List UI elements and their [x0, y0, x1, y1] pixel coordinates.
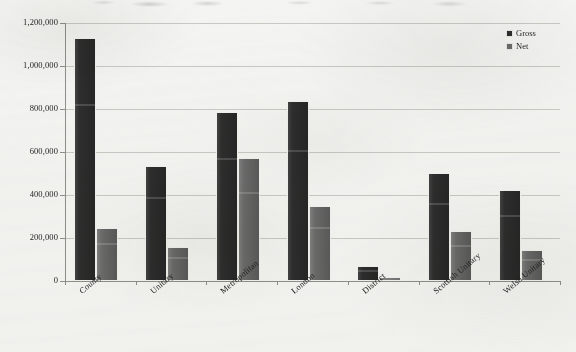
y-tick-label: 600,000: [0, 147, 58, 156]
legend-label: Gross: [516, 29, 536, 38]
gridline: [65, 109, 560, 110]
y-axis-tick-labels: 0200,000400,000600,000800,0001,000,0001,…: [0, 0, 58, 352]
y-tick-label: 200,000: [0, 233, 58, 242]
gridline: [65, 66, 560, 67]
gridline: [65, 23, 560, 24]
x-tick-mark: [277, 281, 278, 285]
chart-legend: GrossNet: [506, 28, 536, 54]
x-tick-mark: [419, 281, 420, 285]
y-tick-mark: [60, 238, 65, 239]
x-tick-mark: [489, 281, 490, 285]
bar-metropolitan-gross[interactable]: [216, 112, 238, 281]
bar-chart: 0200,000400,000600,000800,0001,000,0001,…: [0, 0, 576, 352]
y-tick-label: 0: [0, 276, 58, 285]
x-tick-mark: [560, 281, 561, 285]
y-tick-mark: [60, 23, 65, 24]
bar-county-gross[interactable]: [74, 38, 96, 281]
y-tick-mark: [60, 109, 65, 110]
x-tick-mark: [348, 281, 349, 285]
y-tick-mark: [60, 152, 65, 153]
legend-label: Net: [516, 42, 528, 51]
bar-county-net[interactable]: [96, 228, 118, 281]
legend-item-gross[interactable]: Gross: [506, 28, 536, 38]
y-axis-line: [65, 23, 66, 282]
bar-scottish-unitary-gross[interactable]: [428, 173, 450, 281]
bar-unitary-gross[interactable]: [145, 166, 167, 281]
x-tick-mark: [206, 281, 207, 285]
x-tick-mark: [65, 281, 66, 285]
y-tick-label: 400,000: [0, 190, 58, 199]
legend-item-net[interactable]: Net: [506, 41, 536, 51]
y-tick-mark: [60, 66, 65, 67]
gridline: [65, 195, 560, 196]
gridline: [65, 152, 560, 153]
legend-swatch-gross: [506, 30, 513, 37]
legend-swatch-net: [506, 43, 513, 50]
y-tick-label: 800,000: [0, 104, 58, 113]
bar-london-net[interactable]: [309, 206, 331, 281]
bar-london-gross[interactable]: [287, 101, 309, 281]
y-tick-label: 1,200,000: [0, 18, 58, 27]
x-tick-mark: [136, 281, 137, 285]
bar-welsh-unitary-gross[interactable]: [499, 190, 521, 281]
y-tick-label: 1,000,000: [0, 61, 58, 70]
y-tick-mark: [60, 195, 65, 196]
plot-area: [65, 23, 560, 281]
